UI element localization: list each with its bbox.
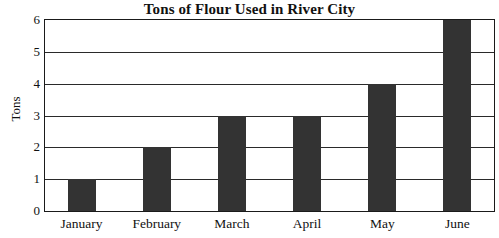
bar-june [443, 20, 471, 211]
bars-layer [45, 20, 494, 211]
x-axis-tick-labels: JanuaryFebruaryMarchAprilMayJune [44, 216, 495, 232]
x-tick-label: June [420, 216, 495, 232]
bar-february [143, 147, 171, 211]
plot-area [44, 19, 495, 212]
bar-chart: Tons of Flour Used in River City Tons 01… [0, 0, 499, 238]
x-tick-label: March [194, 216, 269, 232]
y-tick-label: 5 [0, 44, 40, 57]
y-tick-label: 3 [0, 108, 40, 121]
y-tick-label: 2 [0, 140, 40, 153]
bar-may [368, 84, 396, 211]
bar-slot [45, 20, 120, 211]
bar-slot [344, 20, 419, 211]
bar-april [293, 116, 321, 212]
x-tick-label: February [119, 216, 194, 232]
y-tick-label: 4 [0, 76, 40, 89]
y-axis-tick-labels: 0123456 [0, 0, 40, 238]
y-tick-label: 0 [0, 204, 40, 217]
y-tick-label: 6 [0, 13, 40, 26]
x-tick-label: January [44, 216, 119, 232]
y-tick-label: 1 [0, 172, 40, 185]
bar-slot [269, 20, 344, 211]
bar-march [218, 116, 246, 212]
bar-january [68, 179, 96, 211]
bar-slot [195, 20, 270, 211]
bar-slot [419, 20, 494, 211]
bar-slot [120, 20, 195, 211]
x-tick-label: May [345, 216, 420, 232]
x-tick-label: April [270, 216, 345, 232]
chart-title: Tons of Flour Used in River City [0, 1, 499, 18]
